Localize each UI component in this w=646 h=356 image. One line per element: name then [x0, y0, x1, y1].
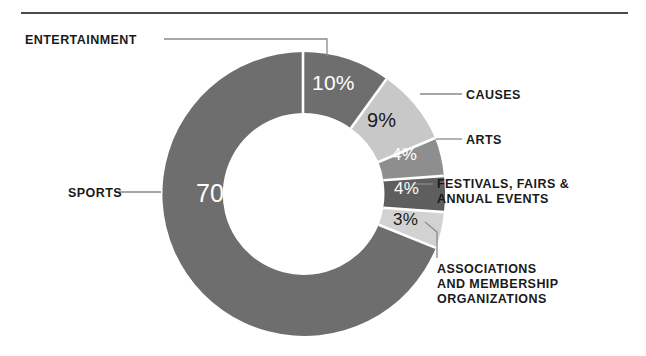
- slice-value-associations: 3%: [393, 211, 418, 228]
- label-festivals: FESTIVALS, FAIRS & ANNUAL EVENTS: [437, 177, 569, 207]
- label-sports: SPORTS: [68, 186, 122, 201]
- slice-value-festivals: 4%: [394, 180, 419, 197]
- slice-value-sports: 70%: [196, 181, 247, 206]
- chart-page: 70% 10% 9% 4% 4% 3% ENTERTAINMENT SPORTS…: [0, 0, 646, 356]
- slice-value-causes: 9%: [367, 110, 396, 130]
- label-arts: ARTS: [466, 133, 502, 148]
- label-entertainment: ENTERTAINMENT: [25, 33, 137, 48]
- label-associations: ASSOCIATIONS AND MEMBERSHIP ORGANIZATION…: [437, 262, 559, 306]
- slice-value-arts: 4%: [392, 146, 417, 163]
- label-causes: CAUSES: [466, 88, 521, 103]
- slice-value-entertainment: 10%: [312, 72, 355, 93]
